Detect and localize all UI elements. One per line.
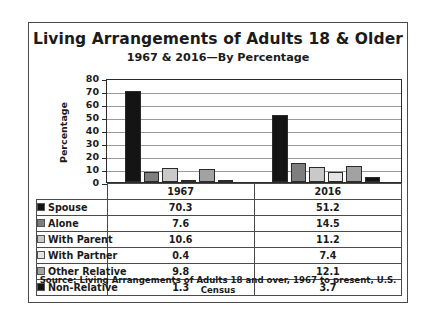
y-tick-label-40: 40 xyxy=(86,126,99,136)
bar-non-relative-2016 xyxy=(365,177,381,182)
table-row: With Partner0.47.4 xyxy=(37,248,402,264)
table-corner-cell xyxy=(37,184,108,200)
table-cell-2016: 14.5 xyxy=(254,216,401,232)
table-row: Alone7.614.5 xyxy=(37,216,402,232)
legend-label: Spouse xyxy=(48,202,87,213)
legend-label: With Parent xyxy=(48,234,113,245)
legend-swatch-icon xyxy=(37,267,45,275)
bar-with-parent-2016 xyxy=(309,167,325,182)
bar-with-partner-1967 xyxy=(181,180,197,182)
y-tick-label-80: 80 xyxy=(86,74,99,84)
chart-subtitle: 1967 & 2016—By Percentage xyxy=(29,52,407,64)
legend-swatch-icon xyxy=(37,251,45,259)
bar-other-relative-2016 xyxy=(346,166,362,182)
bar-group-2016 xyxy=(254,80,401,182)
legend-entry-with-parent: With Parent xyxy=(37,232,108,248)
table-cell-2016: 7.4 xyxy=(254,248,401,264)
bar-non-relative-1967 xyxy=(218,180,234,182)
legend-swatch-icon xyxy=(37,203,45,211)
legend-entry-alone: Alone xyxy=(37,216,108,232)
bar-with-parent-1967 xyxy=(162,168,178,182)
source-note: Source: Living Arrangements of Adults 18… xyxy=(29,275,407,295)
bar-group-1967 xyxy=(107,80,254,182)
table-cell-2016: 51.2 xyxy=(254,200,401,216)
table-row: With Parent10.611.2 xyxy=(37,232,402,248)
y-tick-label-60: 60 xyxy=(86,100,99,110)
table-column-header-1967: 1967 xyxy=(107,184,254,200)
table-cell-1967: 0.4 xyxy=(107,248,254,264)
legend-swatch-icon xyxy=(37,235,45,243)
y-tick-label-10: 10 xyxy=(86,165,99,175)
bar-alone-2016 xyxy=(291,163,307,182)
chart-figure: Living Arrangements of Adults 18 & Older… xyxy=(28,22,408,303)
table-column-header-2016: 2016 xyxy=(254,184,401,200)
table-cell-2016: 11.2 xyxy=(254,232,401,248)
y-axis-title-text: Percentage xyxy=(59,101,70,162)
y-axis-ticks: 01020304050607080 xyxy=(69,79,103,183)
y-tick-label-50: 50 xyxy=(86,113,99,123)
y-tick-label-20: 20 xyxy=(86,152,99,162)
bar-spouse-2016 xyxy=(272,115,288,182)
bar-spouse-1967 xyxy=(125,91,141,182)
bar-other-relative-1967 xyxy=(199,169,215,182)
chart-plot-region: Percentage 01020304050607080 xyxy=(29,79,409,183)
y-tick-label-70: 70 xyxy=(86,87,99,97)
legend-label: Alone xyxy=(48,218,79,229)
legend-entry-with-partner: With Partner xyxy=(37,248,108,264)
legend-entry-spouse: Spouse xyxy=(37,200,108,216)
y-tick-label-30: 30 xyxy=(86,139,99,149)
legend-label: With Partner xyxy=(48,250,117,261)
plot-area xyxy=(106,79,402,183)
table-header-row: 19672016 xyxy=(37,184,402,200)
table-cell-1967: 70.3 xyxy=(107,200,254,216)
chart-title: Living Arrangements of Adults 18 & Older xyxy=(29,31,407,48)
table-cell-1967: 10.6 xyxy=(107,232,254,248)
bar-with-partner-2016 xyxy=(328,172,344,182)
table-cell-1967: 7.6 xyxy=(107,216,254,232)
legend-swatch-icon xyxy=(37,219,45,227)
bar-alone-1967 xyxy=(144,172,160,182)
table-row: Spouse70.351.2 xyxy=(37,200,402,216)
